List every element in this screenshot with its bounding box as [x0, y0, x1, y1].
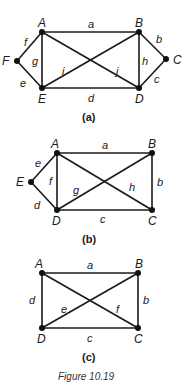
vertex-label: B — [135, 16, 143, 30]
vertex-c-C — [135, 325, 141, 331]
edge-label: f — [24, 36, 28, 48]
figure-caption: Figure 10.19 — [58, 371, 115, 382]
edge-label: g — [32, 55, 39, 67]
edge-label: f — [116, 303, 120, 315]
subfigure-label: (b) — [82, 233, 96, 245]
edge-label: c — [87, 332, 93, 344]
edge-label: d — [34, 199, 41, 211]
edge-label: a — [88, 18, 94, 30]
edge-label: b — [143, 294, 149, 306]
edge-label: a — [102, 139, 108, 151]
edge-label: j — [114, 65, 119, 77]
edge-label: c — [100, 213, 106, 225]
vertex-label: F — [2, 54, 10, 68]
edge-label: h — [142, 55, 148, 67]
vertex-label: B — [148, 137, 156, 151]
vertex-b-C — [149, 207, 155, 213]
vertex-a-D — [136, 85, 142, 91]
vertex-a-C — [163, 56, 169, 62]
vertex-label: E — [16, 175, 25, 189]
vertex-label: C — [134, 332, 143, 346]
vertex-label: B — [135, 257, 143, 271]
vertex-label: D — [135, 92, 144, 106]
edge-label: c — [154, 73, 160, 85]
vertex-label: D — [37, 332, 46, 346]
vertex-label: D — [52, 214, 61, 228]
vertex-label: A — [50, 137, 59, 151]
subfigure-label: (a) — [82, 111, 96, 123]
edge-label: b — [156, 33, 162, 45]
vertex-label: C — [148, 214, 157, 228]
edge-label: d — [88, 92, 95, 104]
vertex-b-E — [28, 179, 34, 185]
figure-canvas: A B C D E F a b c d e f g h i j (a) A B … — [0, 0, 192, 388]
edge-label: b — [157, 176, 163, 188]
edge-label: d — [29, 294, 36, 306]
edge-label: e — [61, 303, 67, 315]
edge-label: a — [87, 259, 93, 271]
graph-a: A B C D E F a b c d e f g h i j (a) — [2, 16, 182, 123]
edge-label: g — [73, 184, 80, 196]
subfigure-label: (c) — [82, 351, 96, 363]
vertex-b-D — [54, 207, 60, 213]
vertex-label: C — [173, 53, 182, 67]
vertex-label: E — [38, 92, 47, 106]
vertex-c-D — [39, 325, 45, 331]
edge-label: e — [20, 77, 26, 89]
vertex-label: A — [37, 16, 46, 30]
vertex-label: A — [34, 257, 43, 271]
graph-c: A B C D a b c d e f (c) — [29, 257, 149, 363]
edge-label: e — [35, 157, 41, 169]
edge-a-f — [17, 32, 42, 61]
edge-label: h — [129, 181, 135, 193]
graph-b: A B C D E a b c d e f g h (b) — [16, 137, 163, 245]
edge-label: f — [49, 175, 53, 187]
vertex-a-F — [14, 58, 20, 64]
vertex-a-E — [39, 85, 45, 91]
